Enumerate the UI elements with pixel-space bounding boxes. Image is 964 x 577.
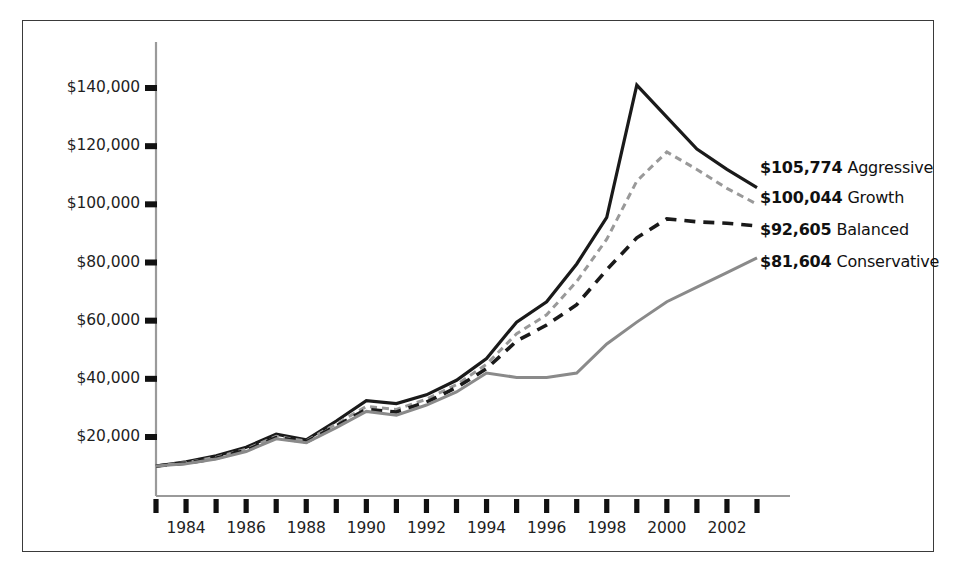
series-end-label-growth: $100,044Growth [760, 188, 904, 207]
x-axis-tick-label: 1998 [577, 519, 637, 537]
x-axis-tick [334, 499, 339, 513]
x-axis-tick [574, 499, 579, 513]
y-axis-tick [145, 376, 157, 382]
y-axis-tick-label: $140,000 [67, 78, 140, 96]
x-axis-tick [424, 499, 429, 513]
line-chart-plot [0, 0, 964, 577]
y-axis-tick [145, 434, 157, 440]
x-axis-tick [183, 499, 188, 513]
x-axis-tick-label: 1992 [396, 519, 456, 537]
x-axis-tick-label: 1984 [156, 519, 216, 537]
y-axis-tick [145, 318, 157, 324]
series-end-name: Conservative [836, 252, 939, 271]
series-line-conservative [156, 258, 757, 466]
series-end-name: Aggressive [847, 158, 933, 177]
y-axis-tick [145, 85, 157, 91]
x-axis-tick [454, 499, 459, 513]
series-end-value: $105,774 [760, 158, 842, 177]
x-axis-tick [604, 499, 609, 513]
x-axis-tick [724, 499, 729, 513]
series-end-value: $100,044 [760, 188, 842, 207]
series-end-value: $81,604 [760, 252, 831, 271]
y-axis-tick [145, 201, 157, 207]
x-axis-ticks [153, 499, 759, 513]
x-axis-tick [274, 499, 279, 513]
series-line-aggressive [156, 85, 757, 466]
x-axis-tick-label: 2002 [697, 519, 757, 537]
series-line-balanced [156, 219, 757, 466]
series-lines [156, 85, 757, 466]
x-axis-tick-label: 1994 [457, 519, 517, 537]
y-axis-tick-label: $80,000 [77, 253, 140, 271]
x-axis-tick [514, 499, 519, 513]
chart-figure: $20,000$40,000$60,000$80,000$100,000$120… [0, 0, 964, 577]
x-axis-tick [634, 499, 639, 513]
x-axis-tick-label: 1986 [216, 519, 276, 537]
series-end-value: $92,605 [760, 220, 831, 239]
y-axis-tick-label: $60,000 [77, 311, 140, 329]
axis-lines [156, 42, 790, 496]
x-axis-tick [244, 499, 249, 513]
y-axis-tick-label: $40,000 [77, 369, 140, 387]
x-axis-tick [694, 499, 699, 513]
series-end-label-balanced: $92,605Balanced [760, 220, 909, 239]
x-axis-tick-label: 1988 [276, 519, 336, 537]
x-axis-tick [153, 499, 158, 513]
series-end-name: Growth [847, 188, 904, 207]
y-axis-tick-label: $20,000 [77, 427, 140, 445]
x-axis-tick [394, 499, 399, 513]
x-axis-tick [754, 499, 759, 513]
series-end-label-conservative: $81,604Conservative [760, 252, 939, 271]
x-axis-tick [664, 499, 669, 513]
x-axis-tick-label: 2000 [637, 519, 697, 537]
series-end-label-aggressive: $105,774Aggressive [760, 158, 933, 177]
y-axis-tick [145, 143, 157, 149]
x-axis-tick-label: 1996 [517, 519, 577, 537]
series-line-growth [156, 152, 757, 466]
x-axis-tick [214, 499, 219, 513]
x-axis-tick [544, 499, 549, 513]
y-axis-tick-label: $100,000 [67, 194, 140, 212]
y-axis-tick [145, 260, 157, 266]
x-axis-tick [364, 499, 369, 513]
x-axis-tick [304, 499, 309, 513]
x-axis-tick [484, 499, 489, 513]
x-axis-tick-label: 1990 [336, 519, 396, 537]
y-axis-tick-label: $120,000 [67, 136, 140, 154]
series-end-name: Balanced [836, 220, 908, 239]
